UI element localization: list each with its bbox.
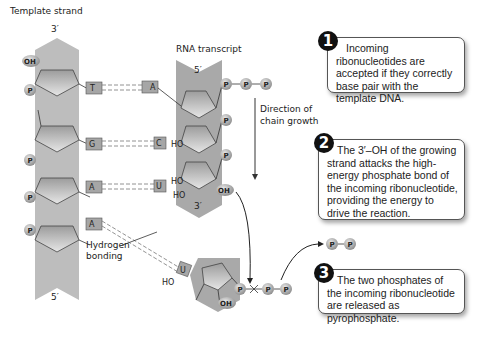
hydrogen-label-2: bonding xyxy=(86,251,123,261)
incoming-triphosphate: P P P xyxy=(234,283,292,295)
rna-phosphate: P xyxy=(220,149,232,161)
svg-text:P: P xyxy=(28,157,33,165)
svg-text:OH: OH xyxy=(218,187,230,195)
svg-text:P: P xyxy=(266,286,271,294)
template-phosphate: P xyxy=(24,224,36,236)
rna-ho-label: HO xyxy=(171,177,183,186)
template-oh: OH xyxy=(22,55,40,67)
template-base-t: T xyxy=(86,82,102,94)
template-base-a2: A xyxy=(86,218,102,230)
rna-3prime-label: 3′ xyxy=(194,201,202,211)
svg-text:P: P xyxy=(238,286,243,294)
rna-ho-label: HO xyxy=(173,191,185,200)
rna-ho-label: HO xyxy=(171,140,183,149)
step-3-box: The two phosphates of the incoming ribon… xyxy=(318,269,465,314)
step-3-number-icon: 3 xyxy=(314,263,334,283)
step-1-number-icon: 1 xyxy=(318,31,338,51)
svg-text:OH: OH xyxy=(220,300,232,308)
hydrogen-label-1: Hydrogen xyxy=(86,240,130,250)
svg-text:P: P xyxy=(264,81,269,89)
svg-text:A: A xyxy=(89,183,95,192)
svg-text:C: C xyxy=(156,139,162,148)
step-2-number-icon: 2 xyxy=(314,133,334,153)
svg-text:P: P xyxy=(28,227,33,235)
template-strand-label: Template strand xyxy=(9,6,83,16)
svg-text:U: U xyxy=(180,266,186,275)
template-5prime-label: 5′ xyxy=(51,292,59,302)
svg-text:P: P xyxy=(28,87,33,95)
rna-base-u: U xyxy=(154,180,166,192)
svg-text:T: T xyxy=(89,84,95,93)
direction-arrow xyxy=(252,98,258,180)
rna-5prime-label: 5′ xyxy=(194,65,202,75)
rna-3prime-oh: OH xyxy=(216,184,234,196)
template-base-a: A xyxy=(86,181,102,193)
incoming-ho-label: HO xyxy=(162,278,174,287)
svg-text:P: P xyxy=(224,81,229,89)
svg-text:U: U xyxy=(156,182,162,191)
step-1-box: Incoming ribonucleotides are accepted if… xyxy=(327,37,465,93)
direction-label-1: Direction of xyxy=(260,104,313,114)
rna-triphosphate: P P P xyxy=(220,78,272,90)
incoming-base-u: U xyxy=(176,261,191,276)
step-2-text: The 3′–OH of the growing strand attacks … xyxy=(327,144,458,219)
svg-text:P: P xyxy=(224,152,229,160)
direction-label-2: chain growth xyxy=(260,116,319,126)
template-strand xyxy=(35,38,90,300)
svg-text:P: P xyxy=(224,117,229,125)
template-phosphate: P xyxy=(24,84,36,96)
svg-text:OH: OH xyxy=(24,58,36,66)
rna-transcript-label: RNA transcript xyxy=(176,44,242,54)
rna-base-c: C xyxy=(154,137,166,149)
template-base-g: G xyxy=(86,138,102,150)
template-3prime-label: 3′ xyxy=(51,24,59,34)
template-phosphate: P xyxy=(24,154,36,166)
svg-text:G: G xyxy=(89,140,95,149)
template-phosphate: P xyxy=(24,191,36,203)
incoming-oh: OH xyxy=(218,297,236,309)
svg-text:A: A xyxy=(150,83,156,92)
svg-text:P: P xyxy=(28,194,33,202)
svg-text:P: P xyxy=(244,81,249,89)
pyrophosphate: P P xyxy=(326,238,356,250)
rna-phosphate: P xyxy=(220,114,232,126)
svg-text:P: P xyxy=(348,241,353,249)
rna-base-a: A xyxy=(142,81,181,106)
step-2-box: The 3′–OH of the growing strand attacks … xyxy=(318,139,465,220)
svg-text:P: P xyxy=(330,241,335,249)
svg-text:A: A xyxy=(89,220,95,229)
svg-text:P: P xyxy=(284,286,289,294)
release-arrow xyxy=(281,244,318,280)
